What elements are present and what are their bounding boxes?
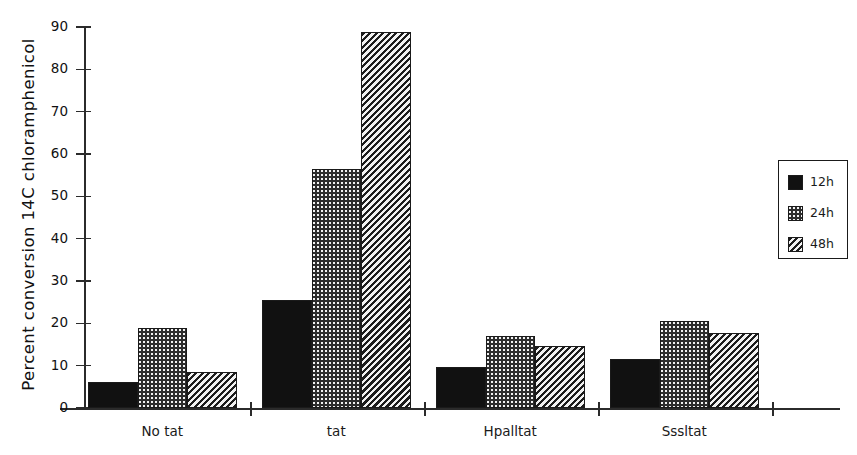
bar-no-tat-48h (187, 372, 237, 408)
bar-hpalltat-12h (436, 367, 486, 408)
x-axis-label-hpalltat: Hpalltat (430, 423, 590, 439)
bars-layer (0, 27, 857, 408)
bar-no-tat-12h (88, 382, 138, 408)
legend-label: 24h (810, 207, 834, 220)
x-axis-label-no-tat: No tat (82, 423, 242, 439)
bar-sssltat-24h (660, 321, 710, 408)
legend-item-48h[interactable]: 48h (788, 237, 834, 252)
bar-sssltat-48h (709, 333, 759, 408)
bar-chart: Percent conversion 14C chloramphenicol 9… (0, 0, 857, 455)
dotted-swatch-icon (788, 206, 803, 221)
legend-item-24h[interactable]: 24h (788, 206, 834, 221)
legend: 12h24h48h (778, 160, 848, 259)
x-axis-line (60, 408, 840, 410)
bar-tat-48h (361, 32, 411, 408)
bar-no-tat-24h (138, 328, 188, 408)
x-axis-label-sssltat: Sssltat (604, 423, 764, 439)
solid-swatch-icon (788, 175, 803, 190)
legend-label: 12h (810, 176, 834, 189)
diagonal-swatch-icon (788, 237, 803, 252)
bar-sssltat-12h (610, 359, 660, 408)
bar-hpalltat-24h (486, 336, 536, 408)
legend-label: 48h (810, 238, 834, 251)
x-axis-label-tat: tat (256, 423, 416, 439)
bar-hpalltat-48h (535, 346, 585, 408)
bar-tat-12h (262, 300, 312, 408)
legend-item-12h[interactable]: 12h (788, 175, 834, 190)
bar-tat-24h (312, 169, 362, 408)
